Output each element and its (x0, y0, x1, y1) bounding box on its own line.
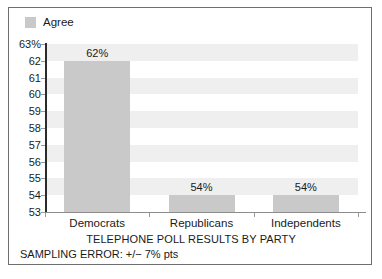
x-tick-mark (358, 213, 359, 217)
y-tick-mark (41, 162, 45, 163)
bar[interactable] (169, 195, 235, 212)
bar[interactable] (64, 61, 130, 212)
x-category-label: Republicans (147, 217, 257, 230)
bar[interactable] (273, 195, 339, 212)
y-tick-label: 59 (29, 106, 41, 117)
x-category-label: Independents (251, 217, 361, 230)
chart-title: TELEPHONE POLL RESULTS BY PARTY (9, 233, 372, 245)
y-tick-mark (41, 178, 45, 179)
y-tick-mark (41, 61, 45, 62)
y-tick-label: 54 (29, 190, 41, 201)
bar-value-label: 54% (276, 182, 336, 193)
y-tick-label: 55 (29, 173, 41, 184)
y-tick-label: 56 (29, 157, 41, 168)
x-category-label: Democrats (42, 217, 152, 230)
bar-value-label: 62% (67, 48, 127, 59)
y-tick-mark (41, 111, 45, 112)
y-tick-label: 60 (29, 89, 41, 100)
y-tick-mark (41, 145, 45, 146)
y-axis-line (45, 43, 47, 213)
y-tick-mark (41, 44, 45, 45)
bar-value-label: 54% (172, 182, 232, 193)
y-tick-label: 63% (19, 39, 41, 50)
y-tick-mark (41, 128, 45, 129)
sampling-error-note: SAMPLING ERROR: +/− 7% pts (20, 248, 178, 260)
x-tick-mark (254, 213, 255, 217)
y-tick-mark (41, 195, 45, 196)
x-tick-mark (149, 213, 150, 217)
x-tick-mark-origin (45, 213, 46, 217)
y-axis-tick-labels: 63%62616059585756555453 (15, 44, 41, 212)
y-tick-label: 61 (29, 73, 41, 84)
y-tick-mark (41, 78, 45, 79)
y-tick-label: 57 (29, 140, 41, 151)
y-tick-mark (41, 94, 45, 95)
y-tick-label: 62 (29, 56, 41, 67)
y-tick-label: 58 (29, 123, 41, 134)
y-tick-label: 53 (29, 207, 41, 218)
chart-panel: Agree 63%62616059585756555453 62%Democra… (8, 7, 372, 265)
x-axis-line (45, 212, 366, 213)
bar-chart: 63%62616059585756555453 62%Democrats54%R… (9, 8, 372, 265)
